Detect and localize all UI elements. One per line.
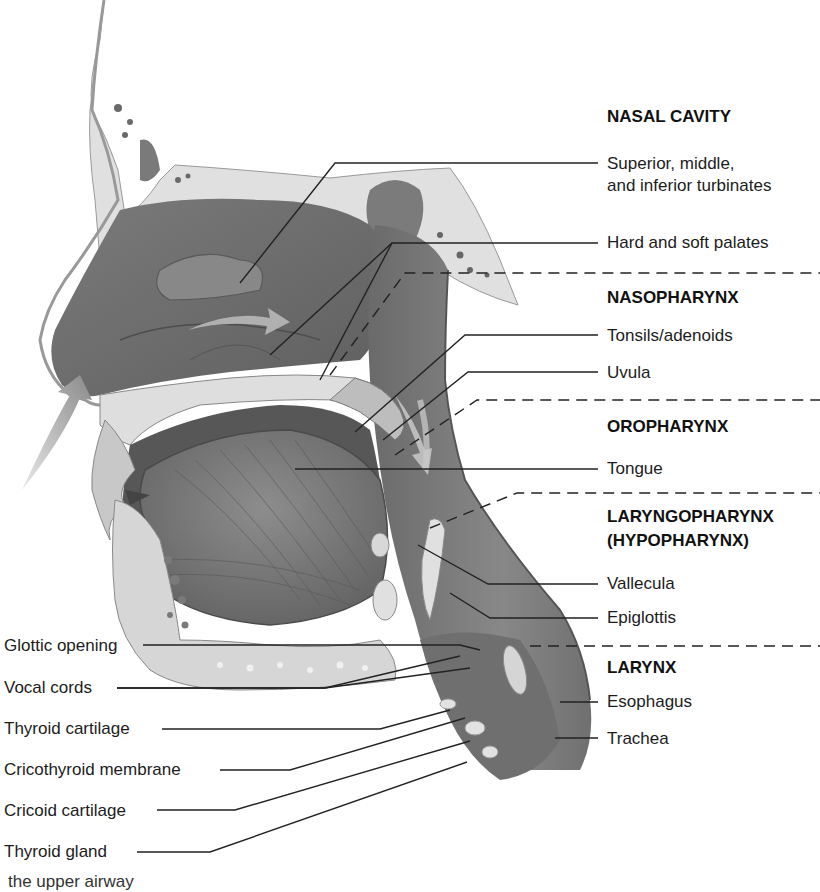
section-title-laryngopharynx: LARYNGOPHARYNX: [607, 506, 774, 528]
label-turbinates-line2: and inferior turbinates: [607, 175, 771, 196]
label-cricothyroid-membrane: Cricothyroid membrane: [4, 759, 181, 780]
hyoid-bone: [373, 580, 397, 620]
label-uvula: Uvula: [607, 362, 650, 383]
label-vallecula: Vallecula: [607, 573, 675, 594]
tongue: [140, 430, 388, 625]
section-title-nasal-cavity: NASAL CAVITY: [607, 106, 731, 128]
label-thyroid-gland: Thyroid gland: [4, 841, 107, 862]
label-tonsils-adenoids: Tonsils/adenoids: [607, 325, 733, 346]
label-cricoid-cartilage: Cricoid cartilage: [4, 800, 126, 821]
section-title-oropharynx: OROPHARYNX: [607, 416, 728, 438]
label-glottic-opening: Glottic opening: [4, 635, 117, 656]
label-epiglottis: Epiglottis: [607, 607, 676, 628]
label-esophagus: Esophagus: [607, 691, 692, 712]
label-turbinates-line1: Superior, middle,: [607, 153, 735, 174]
label-tongue: Tongue: [607, 458, 663, 479]
figure-caption: the upper airway: [8, 872, 134, 892]
label-thyroid-cartilage: Thyroid cartilage: [4, 718, 130, 739]
section-title-nasopharynx: NASOPHARYNX: [607, 287, 739, 309]
section-subtitle-hypopharynx: (HYPOPHARYNX): [607, 530, 749, 552]
label-trachea: Trachea: [607, 728, 669, 749]
airflow-arrow-inlet: [22, 375, 92, 490]
label-vocal-cords: Vocal cords: [4, 677, 92, 698]
section-title-larynx: LARYNX: [607, 657, 676, 679]
label-hard-soft-palates: Hard and soft palates: [607, 232, 769, 253]
